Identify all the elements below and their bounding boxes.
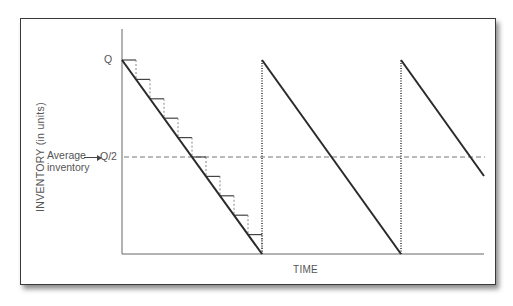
half-q-tick-label: Q/2 — [100, 150, 117, 162]
q-tick-label: Q — [104, 53, 112, 65]
depletion-line-3 — [401, 60, 484, 176]
average-label-line2: inventory — [47, 161, 90, 173]
arrow-icon — [84, 157, 98, 158]
average-inventory-label: Average inventory — [47, 149, 90, 173]
average-label-line1: Average — [47, 149, 90, 161]
x-axis-label: TIME — [293, 264, 318, 275]
y-axis-label: INVENTORY (in units) — [34, 102, 46, 212]
